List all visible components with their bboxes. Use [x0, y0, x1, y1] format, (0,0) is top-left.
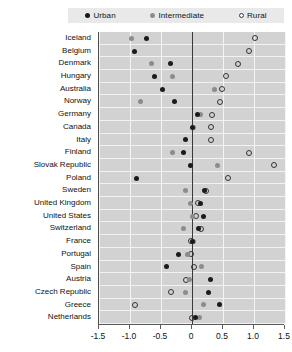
data-point-rural — [217, 99, 223, 105]
x-axis-tick — [253, 325, 254, 329]
rural-marker-icon — [239, 13, 244, 18]
data-point-urban — [198, 201, 203, 206]
chart-legend: Urban Intermediate Rural — [68, 8, 284, 23]
legend-label-rural: Rural — [247, 11, 267, 20]
vertical-gridline — [254, 32, 255, 324]
category-label: Belgium — [62, 45, 91, 58]
data-point-intermediate — [188, 201, 193, 206]
category-label: Netherlands — [48, 311, 91, 324]
data-point-rural — [225, 175, 231, 181]
data-point-rural — [208, 137, 214, 143]
data-point-intermediate — [212, 87, 217, 92]
data-point-urban — [152, 74, 157, 79]
data-point-intermediate — [170, 74, 175, 79]
data-point-urban — [144, 36, 149, 41]
category-label: Italy — [76, 134, 91, 147]
legend-item-urban: Urban — [85, 11, 115, 20]
vertical-gridline — [99, 32, 100, 324]
x-axis-tick — [284, 325, 285, 329]
data-point-intermediate — [185, 252, 190, 257]
x-axis-tick-labels: -1.5-1.0-0.500.51.01.5 — [60, 331, 292, 345]
category-label: Portugal — [61, 248, 91, 261]
data-point-rural — [219, 86, 225, 92]
category-label: Finland — [65, 146, 91, 159]
x-axis-tick — [98, 325, 99, 329]
chart-container: Urban Intermediate Rural IcelandBelgiumD… — [0, 0, 292, 352]
legend-label-intermediate: Intermediate — [158, 11, 204, 20]
x-axis-tick-label: 1.5 — [278, 331, 290, 341]
zero-reference-line — [192, 32, 193, 324]
data-point-rural — [132, 302, 138, 308]
category-label: Denmark — [59, 57, 91, 70]
category-label: Sweden — [62, 184, 91, 197]
x-axis-tick — [160, 325, 161, 329]
legend-label-urban: Urban — [93, 11, 115, 20]
category-label: France — [66, 235, 91, 248]
data-point-rural — [246, 150, 252, 156]
urban-marker-icon — [85, 13, 90, 18]
category-label: Iceland — [65, 32, 91, 45]
x-axis-tick — [222, 325, 223, 329]
category-label: Spain — [71, 261, 91, 274]
category-label: Greece — [65, 299, 91, 312]
data-point-intermediate — [215, 163, 220, 168]
data-point-rural — [209, 112, 215, 118]
plot-area — [98, 32, 285, 324]
x-axis-tick-label: 0.5 — [216, 331, 228, 341]
data-point-urban — [190, 239, 195, 244]
x-axis-tick-label: 0 — [189, 331, 194, 341]
legend-item-intermediate: Intermediate — [150, 11, 204, 20]
data-point-rural — [235, 61, 241, 67]
category-label: Poland — [66, 172, 91, 185]
data-point-urban — [190, 125, 195, 130]
category-label: Switzerland — [50, 222, 91, 235]
data-point-urban — [196, 226, 201, 231]
intermediate-marker-icon — [150, 13, 155, 18]
data-point-intermediate — [183, 290, 188, 295]
category-label: Germany — [58, 108, 91, 121]
category-label: Slovak Republic — [34, 159, 91, 172]
vertical-gridline — [161, 32, 162, 324]
x-axis-line — [98, 324, 284, 331]
category-axis-labels: IcelandBelgiumDenmarkHungaryAustraliaNor… — [0, 32, 95, 324]
category-label: Canada — [63, 121, 91, 134]
x-axis-tick — [191, 325, 192, 329]
data-point-urban — [172, 99, 177, 104]
data-point-urban — [206, 290, 211, 295]
category-label: Austria — [66, 273, 91, 286]
category-label: Czech Republic — [35, 286, 91, 299]
category-label: Hungary — [61, 70, 91, 83]
data-point-urban — [134, 176, 139, 181]
data-point-urban — [193, 315, 198, 320]
vertical-gridline — [130, 32, 131, 324]
x-axis-tick — [129, 325, 130, 329]
x-axis-tick-label: -1.5 — [91, 331, 106, 341]
category-label: Norway — [64, 95, 91, 108]
vertical-gridline — [285, 32, 286, 324]
data-point-intermediate — [190, 214, 195, 219]
data-point-urban — [201, 214, 206, 219]
category-label: United States — [43, 210, 91, 223]
x-axis-tick-label: -1.0 — [122, 331, 137, 341]
x-axis-tick-label: 1.0 — [247, 331, 259, 341]
category-label: Australia — [60, 83, 91, 96]
category-label: United Kingdom — [34, 197, 91, 210]
x-axis-tick-label: -0.5 — [153, 331, 168, 341]
legend-item-rural: Rural — [239, 11, 267, 20]
